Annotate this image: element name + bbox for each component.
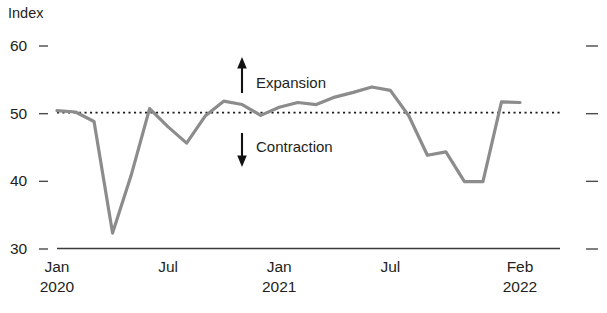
x-tick-label: Jan [45,258,70,275]
x-tick-label: Feb [507,258,534,275]
y-tick-label: 40 [10,172,28,189]
x-tick-label: Jul [158,258,178,275]
index-line-chart: Index 30405060 Expansion Contraction Jan… [0,0,607,313]
y-tick-label: 30 [10,240,28,257]
arrow-down-icon [237,156,247,168]
x-tick-year-label: 2021 [262,278,296,295]
x-tick-label: Jul [380,258,400,275]
annotation-contraction: Contraction [237,133,333,167]
y-axis-unit-label: Index [8,5,44,21]
chart-canvas: Index 30405060 Expansion Contraction Jan… [0,0,607,313]
index-series-line [57,87,520,233]
y-axis-ticks: 30405060 [10,37,48,257]
x-tick-year-label: 2020 [40,278,75,295]
contraction-label: Contraction [256,138,333,155]
arrow-up-icon [237,57,247,69]
y-tick-label: 60 [10,37,28,54]
annotation-expansion: Expansion [237,57,326,93]
x-tick-label: Jan [267,258,292,275]
x-axis-ticks: Jan2020JulJan2021JulFeb2022 [40,258,537,295]
x-tick-year-label: 2022 [503,278,537,295]
y-axis-right-ticks [586,46,598,249]
y-tick-label: 50 [10,105,28,122]
expansion-label: Expansion [256,74,326,91]
